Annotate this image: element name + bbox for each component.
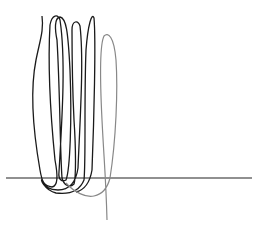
spiral-plot <box>0 0 257 229</box>
dark-spiral-curve <box>33 16 95 193</box>
gray-loop-curve <box>66 35 117 220</box>
